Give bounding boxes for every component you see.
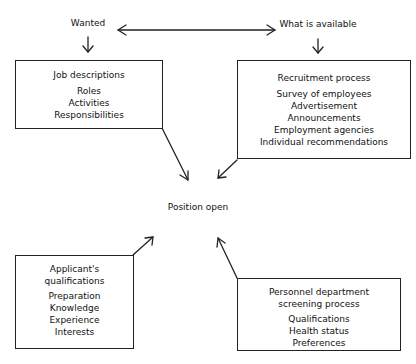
applicant-qualifications-box: Applicant's qualifications Preparation K…	[15, 255, 134, 349]
list-item: Survey of employees	[277, 88, 372, 100]
box-title: Applicant's	[50, 263, 99, 275]
list-item: Responsibilities	[54, 109, 124, 121]
recruitment-process-box: Recruitment process Survey of employees …	[237, 60, 411, 159]
job-descriptions-box: Job descriptions Roles Activities Respon…	[15, 60, 163, 129]
list-item: Preferences	[293, 337, 346, 349]
arrow-down-icon	[313, 39, 323, 53]
list-item: Individual recommendations	[260, 136, 388, 148]
box-title: Recruitment process	[278, 72, 371, 84]
box-title: screening process	[278, 298, 359, 310]
list-item: Knowledge	[50, 302, 99, 314]
box-title: qualifications	[45, 275, 105, 287]
box-title: Personnel department	[269, 286, 369, 298]
list-item: Health status	[289, 325, 349, 337]
list-item: Employment agencies	[274, 124, 374, 136]
list-item: Experience	[49, 314, 99, 326]
position-open-label: Position open	[168, 202, 228, 212]
arrow-diagonal-icon	[133, 237, 153, 255]
list-item: Interests	[55, 326, 94, 338]
double-arrow-icon	[118, 25, 275, 35]
list-item: Activities	[68, 97, 109, 109]
box-title: Job descriptions	[53, 69, 124, 81]
list-item: Roles	[77, 85, 101, 97]
wanted-label: Wanted	[71, 18, 105, 28]
arrow-diagonal-icon	[162, 128, 188, 180]
list-item: Preparation	[49, 290, 101, 302]
list-item: Qualifications	[288, 313, 349, 325]
screening-process-box: Personnel department screening process Q…	[237, 278, 401, 351]
list-item: Advertisement	[291, 100, 357, 112]
list-item: Announcements	[287, 112, 360, 124]
arrow-diagonal-icon	[217, 238, 237, 278]
arrow-down-icon	[83, 37, 93, 52]
available-label: What is available	[279, 19, 356, 29]
arrow-diagonal-icon	[218, 160, 237, 178]
